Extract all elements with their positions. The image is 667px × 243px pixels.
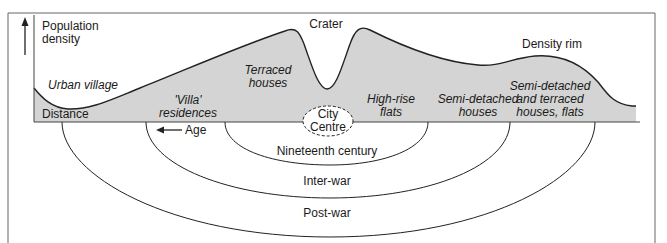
ring-nineteenth-century-label: Nineteenth century <box>277 145 378 158</box>
zone-urban-village-label: Urban village <box>48 79 118 92</box>
zone-villa-line2: residences <box>159 107 217 120</box>
density-rim-label: Density rim <box>522 38 582 51</box>
crater-label: Crater <box>309 18 342 31</box>
city-centre-line2: Centre <box>310 121 346 134</box>
ring-inter-war-label: Inter-war <box>303 175 350 188</box>
urban-density-diagram: Population density Distance Crater Densi… <box>0 0 667 243</box>
zone-high-rise-line2: flats <box>380 106 402 119</box>
zone-terraced-line2: houses <box>249 77 288 90</box>
y-axis-label-line2: density <box>42 33 80 46</box>
x-axis-label: Distance <box>42 108 89 121</box>
ring-post-war-label: Post-war <box>303 207 350 220</box>
zone-semi-detached-line2: houses <box>459 106 498 119</box>
arrow-left-icon <box>156 127 182 134</box>
age-label: Age <box>185 124 206 137</box>
zone-mixed-line3: houses, flats <box>516 106 583 119</box>
arrow-up-icon <box>22 17 29 55</box>
